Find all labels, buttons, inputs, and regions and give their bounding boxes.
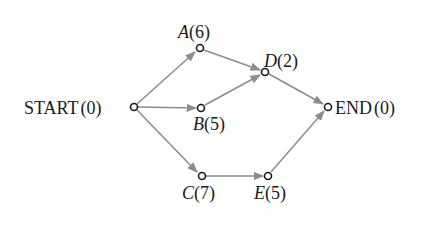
- edge-e-end: [271, 111, 324, 172]
- label-d: D(2): [263, 51, 298, 72]
- label-a: A(6): [177, 22, 210, 43]
- label-e: E(5): [253, 183, 286, 204]
- network-diagram: START(0) A(6) B(5) C(7) D(2) E(5) END(0): [0, 0, 432, 229]
- label-start: START(0): [24, 98, 101, 119]
- node-b: [198, 105, 205, 112]
- node-start: [131, 104, 138, 111]
- edge-a-d: [204, 50, 260, 70]
- nodes: [131, 45, 332, 180]
- node-end: [325, 104, 332, 111]
- edge-start-c: [137, 110, 197, 172]
- label-c: C(7): [182, 183, 215, 204]
- edge-b-d: [205, 75, 260, 105]
- edge-d-end: [269, 74, 323, 104]
- edge-start-a: [137, 52, 195, 104]
- node-c: [199, 173, 206, 180]
- label-b: B(5): [193, 114, 225, 135]
- edge-start-b: [138, 107, 196, 108]
- node-a: [197, 45, 204, 52]
- node-e: [265, 173, 272, 180]
- label-end: END(0): [335, 98, 395, 119]
